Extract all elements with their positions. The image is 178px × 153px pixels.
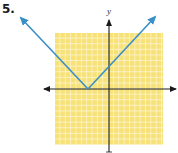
graph: y — [0, 0, 178, 153]
y-axis-label: y — [106, 6, 111, 16]
